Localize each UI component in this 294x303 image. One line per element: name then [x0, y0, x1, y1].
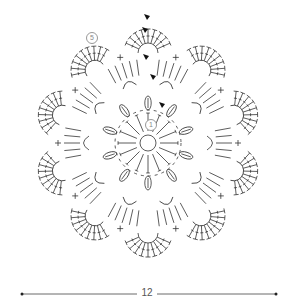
puff-line — [181, 154, 191, 157]
dc-stitch — [195, 82, 206, 94]
chain-arch — [192, 99, 205, 114]
dc-stitch — [64, 149, 80, 150]
fan-dc-bar — [205, 54, 208, 55]
dc-stitch — [156, 122, 169, 135]
dc-stitch — [209, 107, 223, 114]
fan-dc-bar — [250, 118, 251, 121]
dc-stitch — [153, 154, 160, 171]
dc-stitch — [115, 66, 121, 81]
fan-dc-top — [234, 91, 239, 92]
dc-stitch — [203, 94, 216, 103]
fan-base-arch — [138, 43, 158, 53]
dc-stitch — [209, 172, 223, 179]
fan-dc-top — [253, 126, 256, 130]
fan-dc-bar — [249, 109, 250, 112]
round-marker-5: 5 — [86, 32, 98, 44]
fan-dc-top — [75, 54, 78, 58]
dc-stitch — [195, 192, 206, 204]
fan-dc-bar — [151, 36, 154, 37]
scale-value: 12 — [137, 287, 156, 298]
dc-stitch — [163, 209, 167, 225]
fan-dc-top — [218, 228, 221, 232]
dc-stitch — [137, 154, 144, 171]
dc-stitch — [85, 88, 97, 99]
fan-dc-bar — [195, 53, 198, 54]
crochet-diagram — [0, 0, 294, 303]
fan-dc-top — [253, 156, 256, 160]
fan-dc-bar — [249, 175, 250, 178]
fan-dc-bar — [46, 118, 47, 121]
dc-stitch — [206, 178, 220, 186]
fan-dc-bar — [132, 239, 133, 242]
fan-dc-top — [224, 208, 225, 213]
round-1-ring — [140, 135, 156, 151]
fan-dc-bar — [98, 53, 101, 54]
dc-stitch — [72, 172, 86, 179]
fan-dc-bar — [217, 211, 218, 214]
dc-stitch — [180, 69, 188, 83]
dc-stitch — [108, 69, 116, 83]
dc-stitch — [64, 135, 80, 136]
fan-dc-bar — [98, 232, 101, 233]
dc-stitch — [129, 61, 133, 77]
fan-dc-top — [252, 182, 255, 186]
chain-arch — [92, 99, 105, 114]
fan-dc-bar — [79, 221, 80, 224]
fan-dc-top — [234, 194, 239, 195]
fan-dc-bar — [151, 249, 154, 250]
fan-dc-top — [41, 126, 44, 130]
fan-dc-bar — [46, 109, 47, 112]
fan-dc-top — [159, 252, 163, 255]
dc-stitch — [122, 63, 127, 78]
dc-stitch — [65, 128, 81, 131]
dc-stitch — [65, 155, 81, 158]
fan-dc-top — [159, 31, 163, 34]
start-arrow-icon — [144, 14, 150, 20]
fan-dc-bar — [142, 36, 145, 37]
dc-stitch — [108, 203, 116, 217]
fan-dc-bar — [46, 165, 47, 168]
fan-dc-bar — [217, 72, 218, 75]
fan-base-arch — [138, 233, 158, 243]
fan-dc-top — [193, 46, 198, 47]
dc-stitch — [122, 208, 127, 223]
fan-dc-top — [75, 228, 78, 232]
start-arrow-icon — [150, 74, 156, 80]
dc-stitch — [169, 63, 174, 78]
fan-dc-top — [57, 91, 62, 92]
fan-dc-bar — [54, 186, 57, 187]
fan-dc-bar — [205, 231, 208, 232]
puff-line — [181, 129, 191, 132]
dc-stitch — [199, 88, 211, 99]
chain-arch — [92, 172, 105, 187]
dc-stitch — [159, 132, 176, 139]
fan-dc-bar — [239, 99, 242, 100]
dc-stitch — [76, 100, 90, 108]
fan-dc-bar — [142, 249, 145, 250]
fan-dc-top — [79, 49, 83, 52]
dc-stitch — [175, 66, 181, 81]
chain-arch — [121, 79, 136, 89]
fan-dc-top — [105, 235, 109, 237]
fan-dc-top — [213, 234, 217, 237]
fan-dc-top — [98, 239, 103, 240]
fan-dc-bar — [250, 165, 251, 168]
dc-stitch — [157, 60, 159, 76]
fan-dc-bar — [46, 175, 47, 178]
fan-dc-bar — [132, 45, 133, 48]
fan-dc-bar — [163, 45, 164, 48]
fan-dc-top — [187, 48, 191, 50]
fan-dc-top — [105, 48, 109, 50]
dc-stitch — [206, 100, 220, 108]
fan-dc-bar — [163, 239, 164, 242]
dc-stitch — [216, 149, 232, 150]
dc-stitch — [85, 188, 97, 199]
fan-dc-top — [224, 73, 225, 78]
dc-stitch — [129, 209, 133, 225]
fan-dc-top — [71, 208, 72, 213]
fan-dc-top — [79, 234, 83, 237]
fan-dc-top — [193, 239, 198, 240]
dc-stitch — [199, 188, 211, 199]
dc-stitch — [169, 208, 174, 223]
start-arrow-icon — [159, 102, 165, 108]
